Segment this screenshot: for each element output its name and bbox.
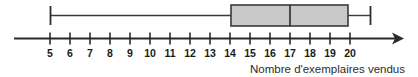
axis-tick-label: 11 <box>164 47 175 59</box>
axis-tick-label: 10 <box>144 47 156 59</box>
axis-caption-label: Nombre d'exemplaires vendus <box>250 63 405 75</box>
axis-tick-labels: 5 6 7 8 9 10 11 12 13 14 15 16 17 18 19 … <box>47 47 356 59</box>
axis-tick-label: 6 <box>67 47 73 59</box>
boxplot-series <box>50 5 371 26</box>
axis-tick-label: 17 <box>284 47 296 59</box>
axis-tick-label: 7 <box>87 47 93 59</box>
axis-tick-label: 20 <box>344 47 356 59</box>
axis-tick-label: 16 <box>264 47 276 59</box>
axis-tick-label: 19 <box>324 47 336 59</box>
axis-tick-label: 18 <box>304 47 316 59</box>
number-line-axis: 5 6 7 8 9 10 11 12 13 14 15 16 17 18 19 … <box>14 33 404 60</box>
boxplot-canvas: 5 6 7 8 9 10 11 12 13 14 15 16 17 18 19 … <box>0 0 418 77</box>
axis-tick-label: 14 <box>224 47 236 59</box>
axis-tick-label: 15 <box>244 47 256 59</box>
axis-tick-label: 9 <box>127 47 133 59</box>
axis-tick-label: 13 <box>204 47 216 59</box>
axis-tick-label: 12 <box>184 47 196 59</box>
axis-tick-label: 8 <box>107 47 113 59</box>
axis-tick-label: 5 <box>47 47 53 59</box>
boxplot-figure: 5 6 7 8 9 10 11 12 13 14 15 16 17 18 19 … <box>0 0 418 77</box>
